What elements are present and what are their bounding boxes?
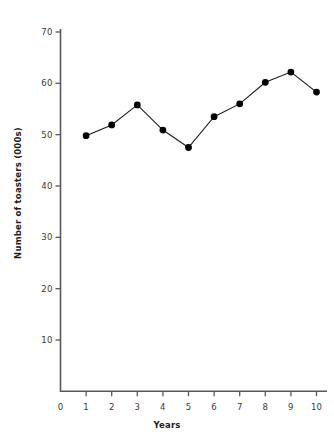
x-axis-tick-label: 3 xyxy=(134,402,140,412)
y-axis-title: Number of toasters (000s) xyxy=(13,113,23,273)
y-axis-tick-label: 60 xyxy=(27,78,53,88)
x-axis-tick-label: 6 xyxy=(211,402,217,412)
data-point xyxy=(185,144,192,151)
x-axis-tick-label: 7 xyxy=(237,402,243,412)
x-axis-tick-label: 0 xyxy=(58,402,64,412)
axis-lines xyxy=(61,29,328,392)
data-point xyxy=(211,113,218,120)
y-axis-tick-label: 20 xyxy=(27,284,53,294)
x-axis-tick-label: 5 xyxy=(186,402,192,412)
data-point xyxy=(160,127,167,134)
y-axis-tick-label: 10 xyxy=(27,335,53,345)
y-axis-tick-label: 70 xyxy=(27,27,53,37)
data-point-markers xyxy=(83,69,320,151)
x-axis-tick-label: 9 xyxy=(288,402,294,412)
x-axis-title: Years xyxy=(0,420,334,430)
data-line xyxy=(86,72,316,147)
data-point xyxy=(83,132,90,139)
data-point xyxy=(313,89,320,96)
line-chart: 10203040506070 012345678910 Years Number… xyxy=(0,0,334,440)
data-point xyxy=(134,101,141,108)
y-axis-tick-label: 40 xyxy=(27,181,53,191)
chart-plot-area xyxy=(0,0,334,440)
y-axis-tick-label: 30 xyxy=(27,232,53,242)
x-axis-tick-label: 1 xyxy=(83,402,89,412)
x-axis-tick-label: 10 xyxy=(311,402,322,412)
data-point xyxy=(288,69,295,76)
data-point xyxy=(108,122,115,129)
data-point xyxy=(262,79,269,86)
x-axis-tick-label: 2 xyxy=(109,402,115,412)
x-axis-tick-label: 8 xyxy=(262,402,268,412)
x-axis-tick-label: 4 xyxy=(160,402,166,412)
data-point xyxy=(236,100,243,107)
y-axis-tick-label: 50 xyxy=(27,130,53,140)
